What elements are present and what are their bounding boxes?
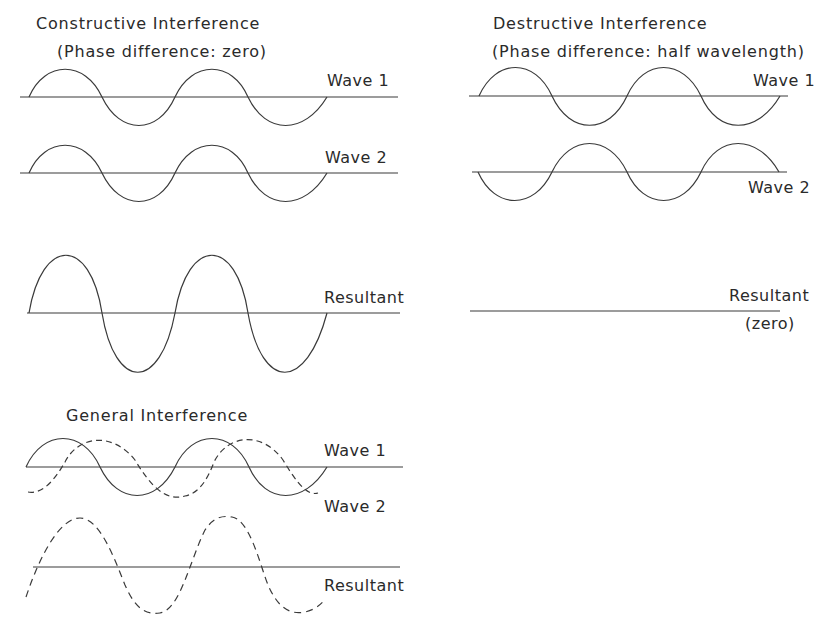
general-wave2-label: Wave 2: [324, 497, 386, 516]
constructive-subtitle: (Phase difference: zero): [57, 42, 267, 61]
destructive-subtitle: (Phase difference: half wavelength): [492, 42, 805, 61]
constructive-wave2-label: Wave 2: [325, 148, 387, 167]
constructive-wave1-label: Wave 1: [327, 71, 389, 90]
general-wave2: [28, 440, 318, 498]
general-resultant-label: Resultant: [324, 576, 404, 595]
destructive-wave1-label: Wave 1: [753, 71, 815, 90]
general-wave1-label: Wave 1: [324, 441, 386, 460]
destructive-title: Destructive Interference: [493, 14, 708, 33]
constructive-title: Constructive Interference: [36, 14, 260, 33]
general-title: General Interference: [66, 406, 248, 425]
destructive-resultant-note: (zero): [745, 314, 795, 333]
general-resultant: [26, 517, 325, 614]
constructive-resultant: [29, 255, 327, 372]
destructive-resultant-label: Resultant: [729, 286, 809, 305]
constructive-resultant-label: Resultant: [324, 288, 404, 307]
destructive-wave2-label: Wave 2: [748, 178, 810, 197]
interference-diagram: [0, 0, 825, 621]
